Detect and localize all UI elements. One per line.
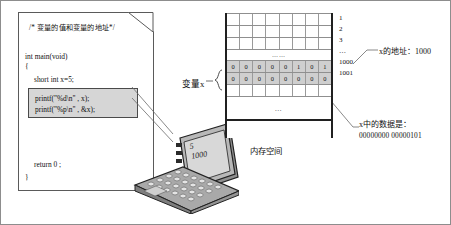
memory-address-label: … — [339, 46, 373, 57]
code-return: return 0 ; — [34, 160, 61, 169]
annotation-data-in-x: x中的数据是： 00000000 00000101 — [359, 119, 422, 141]
memory-cell: 0 — [253, 73, 266, 84]
memory-cell — [319, 85, 331, 96]
memory-cell: 0 — [319, 73, 331, 84]
memory-address-label — [339, 79, 373, 90]
code-main-signature: int main(void) — [25, 52, 68, 61]
memory-cell — [280, 26, 293, 37]
laptop-illustration: 51000 — [129, 119, 239, 214]
memory-cell: 1 — [293, 61, 306, 72]
memory-row — [227, 13, 331, 26]
memory-cell — [266, 38, 279, 49]
memory-cell: 0 — [266, 61, 279, 72]
memory-address-label: 1000 — [339, 57, 373, 68]
memory-row: 00000000 — [227, 73, 331, 85]
memory-cell — [253, 38, 266, 49]
memory-cell — [253, 26, 266, 37]
laptop-output-address: 1000 — [191, 149, 208, 160]
memory-cell — [227, 26, 240, 37]
memory-row-ellipsis: …… — [227, 50, 331, 61]
memory-cell — [319, 14, 331, 25]
memory-cell — [266, 26, 279, 37]
memory-cell — [306, 26, 319, 37]
memory-cell — [253, 85, 266, 96]
code-open-brace: { — [25, 62, 29, 71]
memory-cell: 0 — [280, 73, 293, 84]
annotation-data-in-x-label: x中的数据是： — [359, 119, 422, 130]
memory-cell — [306, 38, 319, 49]
memory-cell: 0 — [227, 73, 240, 84]
laptop-output-value: 5 — [189, 141, 194, 151]
memory-cell — [319, 38, 331, 49]
memory-cell: 0 — [240, 61, 253, 72]
memory-cell: 0 — [227, 61, 240, 72]
laptop-svg — [129, 119, 239, 214]
memory-cell — [306, 85, 319, 96]
memory-table: ……0000010100000000… — [225, 13, 333, 138]
memory-cell — [240, 14, 253, 25]
memory-cell — [293, 14, 306, 25]
memory-address-label: 1001 — [339, 68, 373, 79]
memory-cell — [306, 14, 319, 25]
memory-cell — [240, 26, 253, 37]
memory-address-label — [339, 90, 373, 114]
memory-cell — [227, 85, 240, 96]
annotation-data-in-x-value: 00000000 00000101 — [359, 130, 422, 141]
memory-cell: 0 — [306, 61, 319, 72]
annotation-address-of-x: x的地址：1000 — [379, 45, 431, 56]
memory-cell: 0 — [253, 61, 266, 72]
variable-x-label: 变量x — [182, 77, 204, 89]
memory-cell — [280, 85, 293, 96]
memory-cell — [253, 14, 266, 25]
memory-cell — [227, 14, 240, 25]
memory-cell: 0 — [266, 73, 279, 84]
memory-row — [227, 38, 331, 50]
memory-row: 00000101 — [227, 61, 331, 73]
memory-address-label: 1 — [339, 13, 373, 24]
memory-cell: 0 — [306, 73, 319, 84]
memory-cell — [240, 38, 253, 49]
memory-row — [227, 85, 331, 97]
memory-row-ellipsis-bottom: … — [227, 97, 331, 121]
code-printf-value: printf("%d\n" , x); — [35, 94, 89, 103]
memory-cell — [266, 14, 279, 25]
memory-cell — [280, 38, 293, 49]
figure-canvas: /* 变量的值和变量的地址*/ int main(void) { short i… — [0, 0, 451, 225]
memory-cell: 0 — [240, 73, 253, 84]
code-printf-address: printf("%p\n" , &x); — [35, 105, 95, 114]
memory-cell — [319, 26, 331, 37]
memory-cell — [293, 85, 306, 96]
memory-address-label: 2 — [339, 24, 373, 35]
memory-cell: 0 — [280, 61, 293, 72]
code-comment: /* 变量的值和变量的地址*/ — [29, 24, 115, 33]
memory-cell — [227, 38, 240, 49]
memory-cell: 1 — [319, 61, 331, 72]
memory-caption: 内存空间 — [250, 144, 282, 156]
code-close-brace: } — [25, 173, 29, 182]
memory-cell — [293, 38, 306, 49]
memory-cell — [280, 14, 293, 25]
memory-cell — [240, 85, 253, 96]
memory-row — [227, 26, 331, 38]
laptop-screen-output: 51000 — [189, 139, 208, 161]
memory-cell — [266, 85, 279, 96]
memory-address-label: 3 — [339, 35, 373, 46]
memory-address-column: 123…10001001 — [339, 13, 373, 114]
memory-cell — [293, 26, 306, 37]
code-declaration: short int x=5; — [34, 75, 74, 84]
variable-x-brace — [214, 69, 223, 91]
memory-cell: 0 — [293, 73, 306, 84]
printf-highlight-box: printf("%d\n" , x); printf("%p\n" , &x); — [28, 88, 138, 118]
